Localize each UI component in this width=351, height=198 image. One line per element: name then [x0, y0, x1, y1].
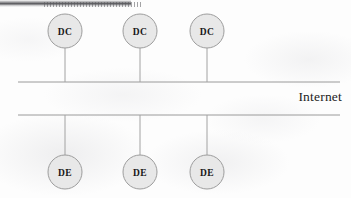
dc-node-label: DC	[200, 27, 214, 37]
dc-connectors	[65, 48, 207, 82]
de-node-1[interactable]: DE	[48, 155, 82, 189]
de-node-label: DE	[58, 168, 72, 178]
internet-label: Internet	[298, 89, 342, 105]
dc-node-3[interactable]: DC	[190, 14, 224, 48]
dc-node-1[interactable]: DC	[48, 14, 82, 48]
dc-node-2[interactable]: DC	[123, 14, 157, 48]
diagram-page: DC DC DC DE DE DE Internet	[0, 0, 351, 198]
dc-node-label: DC	[133, 27, 147, 37]
dc-node-label: DC	[58, 27, 72, 37]
de-node-3[interactable]: DE	[190, 155, 224, 189]
de-node-2[interactable]: DE	[123, 155, 157, 189]
backbone-lines	[18, 82, 340, 115]
de-node-label: DE	[200, 168, 214, 178]
de-node-label: DE	[133, 168, 147, 178]
de-connectors	[65, 115, 207, 155]
